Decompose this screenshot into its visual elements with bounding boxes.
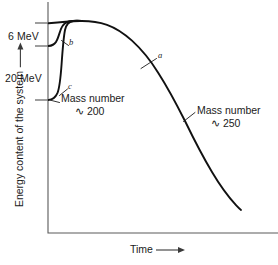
y-axis-title: Energy content of the system xyxy=(13,35,26,215)
annotation-mass-number-200-line1: Mass number xyxy=(61,92,125,104)
annotation-mass-number-250: Mass number ∿ 250 xyxy=(197,104,261,129)
chart-plot-area xyxy=(0,0,278,265)
leader-line-mass-250 xyxy=(184,113,196,122)
curve-label-c: c xyxy=(68,81,72,91)
curve-label-a: a xyxy=(158,50,162,60)
leader-line-mass-200 xyxy=(51,100,60,102)
x-axis-title-text: Time xyxy=(130,243,153,255)
y-axis-arrow-icon xyxy=(15,42,27,68)
x-axis-arrow-icon xyxy=(156,244,186,256)
y-axis-title-text: Energy content of the system xyxy=(13,71,25,207)
curve-label-b: b xyxy=(69,37,73,47)
curve-c xyxy=(49,21,82,100)
annotation-mass-number-200: Mass number ∿ 200 xyxy=(61,92,125,117)
chart-figure: 6 MeV 20 MeV a b c Mass number ∿ 200 Mas… xyxy=(0,0,278,265)
annotation-mass-number-250-line2: ∿ 250 xyxy=(197,117,261,130)
annotation-mass-number-250-line1: Mass number xyxy=(197,104,261,116)
annotation-mass-number-200-line2: ∿ 200 xyxy=(61,105,125,118)
x-axis-title: Time xyxy=(130,243,186,256)
